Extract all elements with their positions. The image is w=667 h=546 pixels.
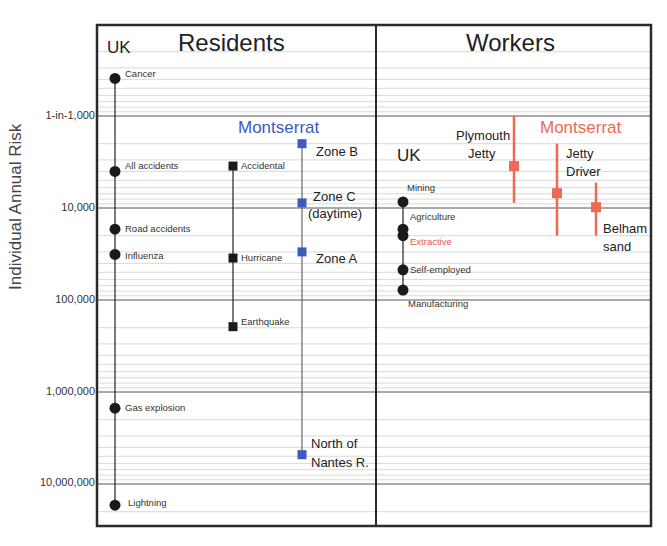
label-north-of: North of [311,436,357,452]
label-extractive: Extractive [410,236,452,247]
y-tick-1000000: 1,000,000 [46,385,95,397]
label-lightning: Lightning [128,497,167,508]
y-axis-label: Individual Annual Risk [6,124,26,290]
label-all-accidents: All accidents [125,160,178,171]
label-agriculture: Agriculture [410,211,455,222]
y-tick-10000: 10,000 [61,201,95,213]
label-cancer: Cancer [125,68,156,79]
label-road-accidents: Road accidents [125,223,190,234]
label-nantes-r: Nantes R. [311,455,369,471]
label-plymouth-jetty: Jetty [468,146,495,162]
y-tick-10000000: 10,000,000 [40,476,95,488]
y-tick-1000: 1-in-1,000 [45,109,95,121]
panel-title-workers: Workers [466,29,555,57]
label-accidental: Accidental [241,160,285,171]
label-plymouth: Plymouth [456,128,510,144]
y-tick-100000: 100,000 [55,293,95,305]
label-zone-b: Zone B [316,144,358,160]
group-title-uk-residents: UK [107,38,131,58]
label-mining: Mining [407,182,435,193]
label-hurricane: Hurricane [241,252,282,263]
label-zone-c: Zone C [313,189,356,205]
group-title-uk-workers: UK [397,146,421,166]
label-jetty: Jetty [566,146,593,162]
label-belham-sand: sand [603,239,631,255]
chart-frame [97,25,651,526]
label-zone-c-daytime: (daytime) [308,206,362,222]
panel-title-residents: Residents [178,29,285,57]
group-title-montserrat-workers: Montserrat [540,118,621,138]
label-gas-explosion: Gas explosion [125,402,185,413]
label-jetty-driver: Driver [566,164,601,180]
label-self-employed: Self-employed [410,264,471,275]
label-belham: Belham [603,221,647,237]
label-zone-a: Zone A [316,251,357,267]
group-title-montserrat-residents: Montserrat [238,118,319,138]
label-manufacturing: Manufacturing [408,298,468,309]
label-earthquake: Earthquake [241,316,290,327]
label-influenza: Influenza [125,250,164,261]
